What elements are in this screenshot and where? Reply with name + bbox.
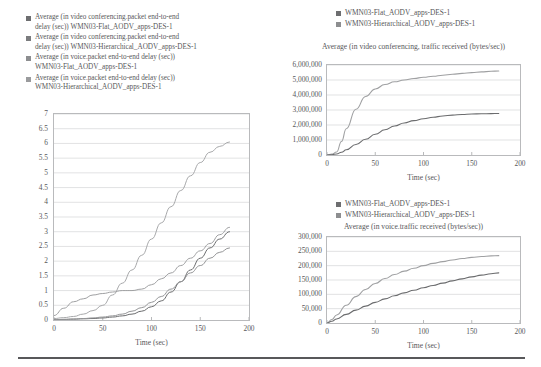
x-axis-tick-label: 150 [457, 328, 487, 336]
y-axis-tick-label: 6,000,000 [268, 61, 322, 69]
chart-title-voice-traffic: Average (in voice.traffic received (byte… [296, 222, 531, 232]
legend-item: WMN03-Flat_AODV_apps-DES-1 [336, 199, 536, 209]
chart-title-video-traffic: Average (in video conferencing, traffic … [296, 42, 531, 52]
x-axis-label-video-traffic: Time (sec) [326, 173, 521, 182]
y-axis-tick-label: 2.5 [2, 242, 48, 250]
x-axis-tick-label: 100 [137, 325, 167, 333]
legend-item-label: Average (in voice.packet end-to-end dela… [35, 74, 175, 93]
x-axis-tick-label: 50 [88, 325, 118, 333]
plot-area-packet-delay [53, 113, 250, 321]
legend-marker-icon [336, 22, 341, 27]
legend-marker-icon [336, 11, 341, 16]
legend-marker-icon [26, 16, 31, 21]
legend-item: WMN03-Hierarchical_AODV_apps-DES-1 [336, 19, 536, 29]
chart-voice-traffic-received: Average (in voice.traffic received (byte… [266, 222, 541, 367]
legend-packet-delay: Average (in video conferencing.packet en… [26, 13, 262, 94]
x-axis-tick-label: 150 [185, 325, 215, 333]
y-axis-tick-label: 200,000 [268, 262, 322, 270]
legend-item: Average (in video conferencing.packet en… [26, 33, 262, 52]
y-axis-tick-label: 1.5 [2, 272, 48, 280]
y-axis-tick-label: 3,000,000 [268, 106, 322, 114]
y-axis-tick-label: 5,000,000 [268, 76, 322, 84]
plot-svg-packet-delay [54, 114, 249, 320]
y-axis-tick-label: 6 [2, 139, 48, 147]
y-axis-tick-label: 4 [2, 198, 48, 206]
y-axis-tick-label: 0 [268, 151, 322, 159]
y-axis-tick-label: 2,000,000 [268, 121, 322, 129]
legend-marker-icon [336, 202, 341, 207]
bottom-divider [18, 357, 525, 359]
legend-item-label: Average (in video conferencing.packet en… [35, 13, 179, 32]
legend-item: Average (in voice.packet end-to-end dela… [26, 53, 262, 72]
y-axis-tick-label: 0 [2, 316, 48, 324]
y-axis-tick-label: 1 [2, 287, 48, 295]
chart-video-conferencing-traffic-received: Average (in video conferencing, traffic … [266, 42, 541, 192]
legend-item-label: WMN03-Flat_AODV_apps-DES-1 [345, 8, 450, 18]
legend-video-traffic: WMN03-Flat_AODV_apps-DES-1 WMN03-Hierarc… [336, 8, 536, 30]
legend-item-label: WMN03-Hierarchical_AODV_apps-DES-1 [345, 210, 475, 220]
y-axis-tick-label: 1,000,000 [268, 136, 322, 144]
plot-svg-video-traffic [327, 65, 520, 155]
x-axis-tick-label: 0 [312, 328, 342, 336]
x-axis-label-voice-traffic: Time (sec) [326, 341, 521, 350]
legend-voice-traffic: WMN03-Flat_AODV_apps-DES-1 WMN03-Hierarc… [336, 199, 536, 221]
plot-area-video-traffic [326, 64, 521, 156]
legend-item-label: WMN03-Flat_AODV_apps-DES-1 [345, 199, 450, 209]
y-axis-tick-label: 250,000 [268, 247, 322, 255]
y-axis-tick-label: 3 [2, 228, 48, 236]
y-axis-tick-label: 4,000,000 [268, 91, 322, 99]
plot-area-voice-traffic [326, 236, 521, 324]
legend-marker-icon [26, 36, 31, 41]
x-axis-tick-label: 50 [360, 160, 390, 168]
legend-marker-icon [336, 213, 341, 218]
y-axis-tick-label: 50,000 [268, 305, 322, 313]
legend-item-label: Average (in voice.packet end-to-end dela… [35, 53, 175, 72]
legend-item: WMN03-Hierarchical_AODV_apps-DES-1 [336, 210, 536, 220]
y-axis-tick-label: 0 [268, 319, 322, 327]
legend-item: WMN03-Flat_AODV_apps-DES-1 [336, 8, 536, 18]
y-axis-tick-label: 3.5 [2, 213, 48, 221]
y-axis-tick-label: 0.5 [2, 301, 48, 309]
x-axis-label-packet-delay: Time (sec) [53, 338, 250, 347]
y-axis-tick-label: 7 [2, 110, 48, 118]
x-axis-tick-label: 200 [505, 328, 535, 336]
x-axis-tick-label: 200 [234, 325, 264, 333]
x-axis-tick-label: 0 [312, 160, 342, 168]
y-axis-tick-label: 100,000 [268, 290, 322, 298]
y-axis-tick-label: 2 [2, 257, 48, 265]
y-axis-tick-label: 5.5 [2, 154, 48, 162]
chart-packet-end-to-end-delay: 00.511.522.533.544.555.566.57 0501001502… [0, 108, 265, 358]
y-axis-tick-label: 150,000 [268, 276, 322, 284]
legend-marker-icon [26, 56, 31, 61]
y-axis-tick-label: 300,000 [268, 233, 322, 241]
x-axis-tick-label: 100 [409, 328, 439, 336]
x-axis-tick-label: 100 [409, 160, 439, 168]
y-axis-tick-label: 5 [2, 169, 48, 177]
figure-canvas: Average (in video conferencing.packet en… [0, 0, 541, 367]
legend-item: Average (in voice.packet end-to-end dela… [26, 74, 262, 93]
y-axis-tick-label: 4.5 [2, 184, 48, 192]
x-axis-tick-label: 50 [360, 328, 390, 336]
y-axis-tick-label: 6.5 [2, 125, 48, 133]
legend-item-label: Average (in video conferencing.packet en… [35, 33, 197, 52]
plot-svg-voice-traffic [327, 237, 520, 323]
legend-item-label: WMN03-Hierarchical_AODV_apps-DES-1 [345, 19, 475, 29]
legend-marker-icon [26, 77, 31, 82]
x-axis-tick-label: 0 [39, 325, 69, 333]
x-axis-tick-label: 200 [505, 160, 535, 168]
legend-item: Average (in video conferencing.packet en… [26, 13, 262, 32]
x-axis-tick-label: 150 [457, 160, 487, 168]
